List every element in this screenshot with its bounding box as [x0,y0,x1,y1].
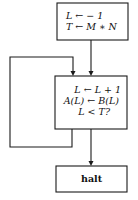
edge-init-to-loop [89,40,94,76]
arrow-down-icon [89,71,94,76]
arrow-down-icon [89,161,94,166]
init-line-2: T ← M ∗ N [66,21,118,32]
halt-label: halt [81,173,103,184]
init-node: L ← − 1 T ← M ∗ N [57,3,128,40]
loop-line-3: L < T? [77,106,111,117]
arrow-down-icon [71,71,76,76]
halt-node: halt [56,166,127,192]
loop-body-node: L ← L + 1 A(L) ← B(L) L < T? [55,76,127,129]
loop-line-2: A(L) ← B(L) [63,95,120,106]
flowchart: L ← − 1 T ← M ∗ N L ← L + 1 A(L) ← B(L) … [0,0,138,200]
edge-loop-to-halt [89,129,94,166]
init-line-1: L ← − 1 [65,10,103,21]
loop-line-1: L ← L + 1 [73,84,121,95]
